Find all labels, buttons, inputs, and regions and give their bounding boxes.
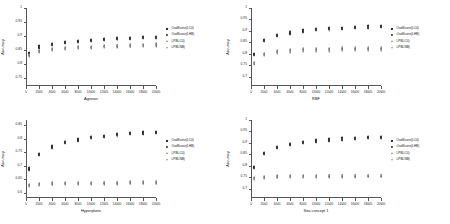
x-tick bbox=[91, 198, 92, 201]
x-tick bbox=[130, 198, 131, 201]
x-tick bbox=[355, 86, 356, 89]
data-point bbox=[103, 182, 105, 184]
data-point bbox=[77, 139, 79, 141]
y-tick-label: 0.75 bbox=[231, 176, 247, 179]
data-point bbox=[289, 32, 291, 34]
data-point bbox=[64, 48, 66, 50]
data-point bbox=[315, 50, 317, 52]
x-tick-label: 20000 bbox=[372, 91, 390, 94]
x-tick-label: 20000 bbox=[147, 203, 165, 206]
legend-item: LPBLNB) bbox=[388, 45, 419, 50]
legend-marker bbox=[163, 151, 170, 156]
legend: OodScore(LC0)OodScore(LHB)LPBLC0)LPBLNB) bbox=[163, 26, 194, 50]
data-point bbox=[253, 54, 255, 56]
data-point bbox=[341, 175, 343, 177]
x-axis-label: Agnews bbox=[84, 96, 98, 101]
data-point bbox=[315, 176, 317, 178]
legend-marker bbox=[388, 138, 395, 143]
y-tick-label: 0.8 bbox=[6, 137, 22, 140]
legend-label: LPBLC0) bbox=[397, 40, 410, 43]
data-point bbox=[315, 29, 317, 31]
legend-marker-glyph bbox=[166, 159, 168, 161]
data-point bbox=[64, 142, 66, 144]
y-tick bbox=[24, 64, 27, 65]
data-point bbox=[90, 47, 92, 49]
y-tick bbox=[249, 8, 252, 9]
legend: OodScore(LC0)OodScore(LHB)LPBLC0)LPBLNB) bbox=[163, 138, 194, 162]
data-point bbox=[328, 139, 330, 141]
y-tick bbox=[249, 77, 252, 78]
y-axis-spine bbox=[26, 8, 27, 86]
x-tick bbox=[264, 86, 265, 89]
legend-item: LPBLC0) bbox=[163, 151, 194, 156]
x-tick bbox=[65, 86, 66, 89]
y-tick-label: 0.75 bbox=[6, 151, 22, 154]
legend-label: LPBLC0) bbox=[397, 152, 410, 155]
data-point bbox=[276, 52, 278, 54]
data-point bbox=[263, 54, 265, 56]
x-tick bbox=[91, 86, 92, 89]
data-point bbox=[129, 182, 131, 184]
y-tick-label: 0.75 bbox=[6, 76, 22, 79]
data-point bbox=[354, 27, 356, 29]
x-tick bbox=[52, 86, 53, 89]
legend-marker-glyph bbox=[165, 27, 167, 29]
data-point bbox=[51, 44, 53, 46]
data-point bbox=[354, 138, 356, 140]
x-tick bbox=[251, 86, 252, 89]
legend-item: LPBLC0) bbox=[388, 151, 419, 156]
y-tick bbox=[24, 179, 27, 180]
data-point bbox=[263, 153, 265, 155]
y-tick bbox=[24, 36, 27, 37]
data-point bbox=[341, 138, 343, 140]
legend-marker bbox=[163, 138, 170, 143]
data-point bbox=[155, 182, 157, 184]
x-tick bbox=[156, 86, 157, 89]
data-point bbox=[380, 175, 382, 177]
x-tick bbox=[104, 86, 105, 89]
legend-marker bbox=[163, 45, 170, 50]
legend-item: OodScore(LC0) bbox=[388, 26, 419, 31]
x-tick bbox=[52, 198, 53, 201]
legend-item: OodScore(LHB) bbox=[388, 32, 419, 37]
plot-area: 0.750.80.850.90.951020004000600080001000… bbox=[26, 8, 156, 86]
y-axis-label: Accuracy bbox=[1, 39, 5, 55]
legend-marker bbox=[388, 32, 395, 37]
x-tick bbox=[355, 198, 356, 201]
legend-item: OodScore(LC0) bbox=[163, 26, 194, 31]
y-tick-label: 0.85 bbox=[6, 48, 22, 51]
data-point bbox=[380, 26, 382, 28]
data-point bbox=[116, 45, 118, 47]
y-axis-label: Accuracy bbox=[226, 151, 230, 167]
y-tick-label: 0.95 bbox=[231, 18, 247, 21]
y-tick-label: 1 bbox=[6, 6, 22, 9]
x-axis-label: RBF bbox=[312, 96, 320, 101]
y-axis-spine bbox=[26, 120, 27, 198]
data-point bbox=[380, 137, 382, 139]
data-point bbox=[90, 183, 92, 185]
y-tick-label: 0.7 bbox=[231, 75, 247, 78]
data-point bbox=[64, 42, 66, 44]
y-tick bbox=[249, 120, 252, 121]
legend-marker bbox=[388, 45, 395, 50]
x-tick bbox=[303, 86, 304, 89]
legend-marker bbox=[163, 157, 170, 162]
x-tick bbox=[342, 198, 343, 201]
data-point bbox=[77, 183, 79, 185]
legend-label: OodScore(LC0) bbox=[172, 27, 194, 30]
legend-marker bbox=[388, 157, 395, 162]
data-point bbox=[90, 137, 92, 139]
legend-label: OodScore(LC0) bbox=[397, 27, 419, 30]
data-point bbox=[302, 50, 304, 52]
y-tick bbox=[249, 143, 252, 144]
y-tick-label: 0.9 bbox=[6, 34, 22, 37]
x-tick bbox=[251, 198, 252, 201]
legend-item: LPBLNB) bbox=[163, 157, 194, 162]
y-tick-label: 0.8 bbox=[6, 62, 22, 65]
legend-marker-glyph bbox=[165, 139, 167, 141]
x-tick bbox=[156, 198, 157, 201]
data-point bbox=[51, 49, 53, 51]
data-point bbox=[367, 137, 369, 139]
x-tick bbox=[277, 86, 278, 89]
legend-label: LPBLC0) bbox=[172, 152, 185, 155]
